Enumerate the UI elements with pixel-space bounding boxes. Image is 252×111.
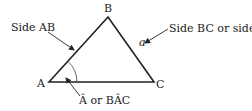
vertex-b-label: B <box>104 3 112 14</box>
triangle-diagram: B A C a Side AB Side BC or side a Â or B… <box>0 0 252 111</box>
side-bc-prefix: Side BC or side <box>169 22 252 35</box>
angle-a-arc <box>68 61 77 82</box>
vertex-a-label: A <box>37 78 45 89</box>
triangle-abc <box>49 17 154 82</box>
side-a-label: a <box>139 37 146 48</box>
vertex-c-label: C <box>156 79 164 90</box>
angle-a-arrow <box>66 78 80 96</box>
side-ab-annotation: Side AB <box>11 22 55 33</box>
side-ab-arrow <box>48 32 74 50</box>
side-bc-arrow <box>145 29 168 43</box>
angle-a-annotation: Â or BÂC <box>79 95 130 106</box>
side-bc-annotation: Side BC or side a <box>169 23 252 34</box>
